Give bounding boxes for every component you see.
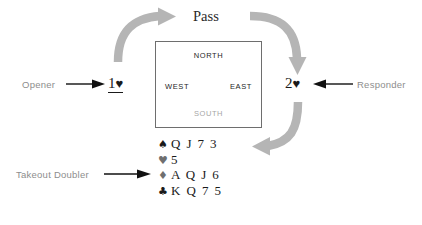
compass-north-label: NORTH [156,51,261,60]
takeout-doubler-role-label: Takeout Doubler [16,169,89,180]
pass-bid-label: Pass [193,8,219,25]
compass-east-label: EAST [230,82,252,91]
hand-row: ♣ K Q 7 5 [158,183,222,199]
compass-south-label: SOUTH [156,109,261,118]
spade-suit-icon: ♠ [158,139,171,150]
hand-cards-hearts: 5 [171,152,179,168]
bridge-bidding-diagram: Pass NORTH WEST EAST SOUTH Opener 1♥ 2♥ … [0,0,422,225]
hand-cards-diamonds: A Q J 6 [171,167,220,183]
compass-west-label: WEST [165,82,189,91]
arrow-right-icon-doubler [104,169,152,179]
hand-cards-spades: Q J 7 3 [171,136,218,152]
opener-role-label: Opener [22,79,55,90]
opener-bid-number: 1 [108,75,116,91]
arrow-right-icon-opener [66,79,106,89]
diamond-suit-icon: ♦ [158,170,171,181]
responder-bid: 2♥ [285,76,300,91]
opener-bid-suit-icon: ♥ [116,76,124,91]
takeout-doubler-hand: ♠ Q J 7 3 ♥ 5 ♦ A Q J 6 ♣ K Q 7 5 [158,136,222,198]
hand-row: ♥ 5 [158,152,222,168]
opener-bid: 1♥ [108,76,123,93]
compass-box: NORTH WEST EAST SOUTH [155,41,262,128]
hand-row: ♦ A Q J 6 [158,167,222,183]
club-suit-icon: ♣ [158,186,171,197]
hand-row: ♠ Q J 7 3 [158,136,222,152]
responder-role-label: Responder [357,79,406,90]
arrow-left-icon-responder [311,79,353,89]
responder-bid-suit-icon: ♥ [293,76,301,91]
responder-bid-number: 2 [285,75,293,91]
heart-suit-icon: ♥ [158,155,171,166]
hand-cards-clubs: K Q 7 5 [171,183,222,199]
